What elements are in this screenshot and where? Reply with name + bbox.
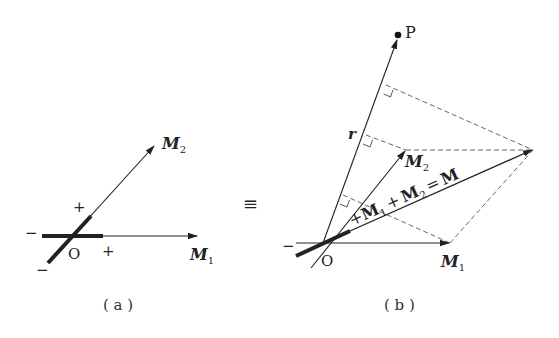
plus-sign-upper: + bbox=[73, 198, 86, 216]
panel-b: P r − O M2 M1 +M1+M2=M ( b ) bbox=[282, 23, 533, 314]
position-vector-label: r bbox=[348, 125, 357, 143]
caption-a: ( a ) bbox=[103, 296, 133, 314]
plus-sign-right: + bbox=[102, 242, 115, 260]
minus-sign-left: − bbox=[25, 224, 38, 242]
point-p-label: P bbox=[405, 23, 416, 42]
right-angle-marks bbox=[340, 90, 393, 207]
vector-m2-label-a: M2 bbox=[161, 134, 186, 155]
vector-m1-label-a: M1 bbox=[189, 245, 214, 266]
minus-sign-left-b: − bbox=[282, 237, 295, 255]
point-p bbox=[395, 32, 402, 39]
caption-b: ( b ) bbox=[384, 296, 415, 314]
vector-m2-label-b: M2 bbox=[404, 152, 429, 173]
origin-label-b: O bbox=[321, 252, 333, 270]
panel-a: + + − − O M2 M1 ( a ) bbox=[25, 134, 214, 314]
moment-vector-diagram: + + − − O M2 M1 ( a ) ≡ bbox=[0, 0, 559, 338]
minus-sign-lower: − bbox=[36, 261, 49, 279]
equivalence-symbol: ≡ bbox=[243, 193, 258, 214]
vector-m1-label-b: M1 bbox=[440, 252, 465, 273]
resultant-label: +M1+M2=M bbox=[346, 164, 462, 231]
origin-label-a: O bbox=[68, 245, 80, 263]
